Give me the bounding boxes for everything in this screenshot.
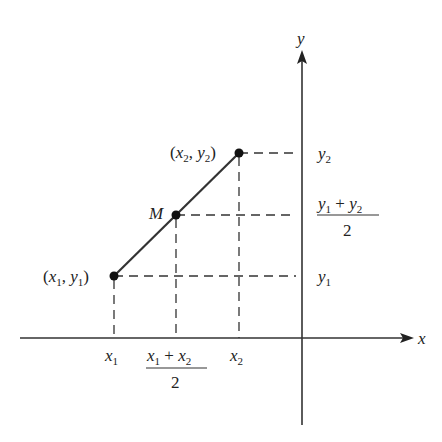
point-p1 [110,272,119,281]
y1-label: y1 [316,267,331,288]
x1-label: x1 [104,346,118,367]
y-mid-denominator: 2 [343,221,352,240]
midpoint-diagram: x y (x1, y1) (x2, y2) M x1 x2 x1 + x2 2 … [0,0,442,442]
y2-label: y2 [316,144,331,165]
y-axis-label: y [295,29,305,48]
point-p2 [235,149,244,158]
y-mid-numerator: y1 + y2 [316,194,362,215]
label-m: M [148,204,164,223]
x2-label: x2 [229,346,243,367]
x-mid-denominator: 2 [171,373,180,392]
point-m [172,211,181,220]
x-mid-numerator: x1 + x2 [146,346,191,367]
label-p2: (x2, y2) [170,143,216,164]
x-axis-label: x [417,329,426,348]
label-p1: (x1, y1) [43,267,89,288]
dashed-guides [114,153,296,338]
